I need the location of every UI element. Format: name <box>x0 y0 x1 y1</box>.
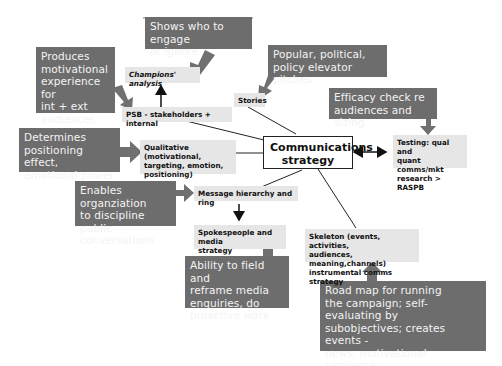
node-message: Message hierarchy and ring <box>194 186 298 201</box>
line-stories-center <box>248 107 296 134</box>
node-spokespeople: Spokespeople and media strategy <box>194 225 286 249</box>
note-testing: Efficacy check re audiences and sizing <box>329 88 437 119</box>
node-stories: Stories <box>234 93 265 107</box>
line-psb-center <box>182 120 264 140</box>
note-qualitative: Determines positioning effect, emotional… <box>19 128 120 172</box>
node-qualitative: Qualitative (motivational, targeting, em… <box>140 140 236 174</box>
center-communications-strategy: Communications strategy <box>263 136 353 169</box>
note-psb: Produces motivational experience for int… <box>36 47 115 113</box>
note-champions: Shows who to engage or ignore <box>145 17 252 49</box>
note-stories: Popular, political, policy elevator pitc… <box>268 45 387 77</box>
node-psb: PSB - stakeholders + internal <box>122 107 232 122</box>
callout-arrow-testing <box>420 118 436 135</box>
node-testing: Testing: qual and quant comms/mkt resear… <box>393 135 467 168</box>
node-champions: Champions' analysis <box>125 67 200 83</box>
node-skeleton: Skeleton (events, activities, audiences,… <box>305 229 419 262</box>
note-message: Enables organziation to discipline publi… <box>75 181 176 226</box>
callout-arrow-qualitative <box>120 141 142 163</box>
note-spokespeople: Ability to field and reframe media enqui… <box>185 256 289 308</box>
note-skeleton: Road map for running the campaign; self-… <box>320 281 486 351</box>
callout-arrow-message <box>176 184 194 202</box>
line-skeleton-center <box>318 169 356 228</box>
